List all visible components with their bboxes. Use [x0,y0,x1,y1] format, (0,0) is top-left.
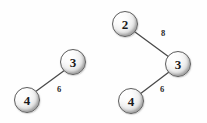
edge-weight-label: 8 [161,29,165,38]
graph-node-4[interactable]: 4 [118,88,144,114]
diagram-canvas: 634 86234 [0,0,207,123]
node-label: 3 [175,57,182,70]
node-label: 4 [24,93,31,106]
node-label: 2 [122,17,129,30]
graph-edge [140,72,169,94]
node-label: 4 [128,94,135,107]
graph-node-3[interactable]: 3 [165,51,191,77]
node-label: 3 [70,55,77,68]
graph-node-4[interactable]: 4 [14,87,40,113]
edge-weight-label: 6 [160,85,164,94]
graph-node-3[interactable]: 3 [60,49,86,75]
edge-weight-label: 6 [57,85,61,94]
graph-node-2[interactable]: 2 [112,11,138,37]
